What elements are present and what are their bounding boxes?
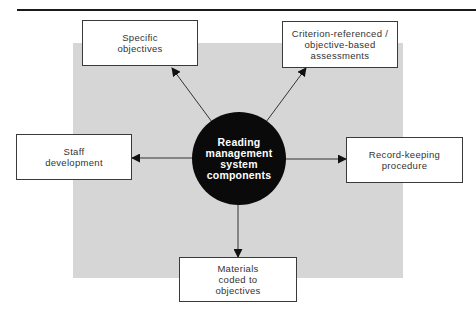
node-staff-development: Staff development: [16, 134, 132, 180]
central-hub-circle: Reading management system components: [192, 112, 286, 205]
node-criterion-referenced-assessments: Criterion-referenced / objective-based a…: [282, 21, 398, 68]
arrow-to-criterion-assessments: [266, 68, 306, 122]
node-specific-objectives: Specific objectives: [82, 20, 198, 66]
node-label: Specific objectives: [117, 32, 162, 54]
hub-label: Reading management system components: [206, 137, 273, 181]
node-label: Materials coded to objectives: [215, 263, 260, 296]
node-materials-coded-to-objectives: Materials coded to objectives: [179, 257, 297, 302]
node-label: Criterion-referenced / objective-based a…: [292, 28, 388, 61]
node-label: Record-keeping procedure: [369, 149, 440, 171]
node-label: Staff development: [45, 146, 103, 168]
arrow-to-specific-objectives: [172, 68, 212, 122]
node-record-keeping-procedure: Record-keeping procedure: [346, 137, 463, 183]
